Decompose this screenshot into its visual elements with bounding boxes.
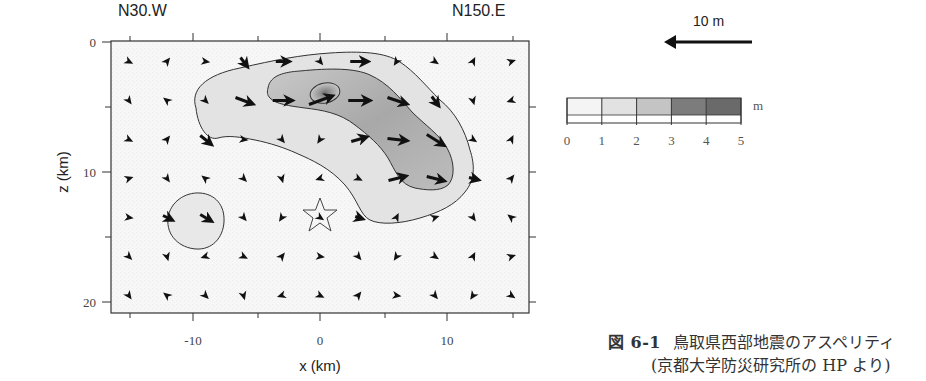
colorbar-cell xyxy=(637,98,672,115)
colorbar-tick-label: 2 xyxy=(633,133,640,148)
caption-number: 図 6-1 xyxy=(608,333,661,352)
plot-area xyxy=(111,41,529,313)
colorbar-tick-label: 3 xyxy=(668,133,675,148)
contour-1m-secondary xyxy=(168,193,224,249)
colorbar-tick-label: 5 xyxy=(738,133,745,148)
colorbar-tick-label: 0 xyxy=(564,133,571,148)
colorbar: 012345 m xyxy=(564,98,763,148)
y-tick-label: 10 xyxy=(83,165,96,180)
y-tick-label: 0 xyxy=(90,35,97,50)
colorbar-unit: m xyxy=(753,98,763,113)
figure-caption: 図 6-1鳥取県西部地震のアスペリティ (京都大学防災研究所の HP より) xyxy=(608,331,895,377)
x-tick-label: 0 xyxy=(317,333,324,348)
x-axis-label: x (km) xyxy=(299,357,341,374)
colorbar-cell xyxy=(706,98,741,115)
colorbar-cell xyxy=(671,98,706,115)
y-axis-label: z (km) xyxy=(54,151,71,193)
slip-arrow-icon xyxy=(388,139,406,141)
x-tick-labels: -10 0 10 xyxy=(184,333,453,348)
colorbar-cell xyxy=(602,98,637,115)
caption-line2: (京都大学防災研究所の HP より) xyxy=(608,354,895,377)
x-tick-label: 10 xyxy=(441,333,454,348)
y-tick-label: 20 xyxy=(83,295,96,310)
y-tick-labels: 0 10 20 xyxy=(83,35,96,310)
scale-arrow: 10 m xyxy=(664,13,752,49)
arrow-left-icon xyxy=(664,35,676,49)
colorbar-tick-label: 1 xyxy=(599,133,606,148)
direction-label-left: N30.W xyxy=(118,2,168,19)
direction-label-right: N150.E xyxy=(452,2,505,19)
x-tick-label: -10 xyxy=(184,333,201,348)
asperity-figure: N30.W N150.E 10 m xyxy=(0,0,926,381)
colorbar-cell xyxy=(567,98,602,115)
colorbar-tick-label: 4 xyxy=(703,133,710,148)
slip-arrow-icon xyxy=(355,217,361,219)
caption-line1: 鳥取県西部地震のアスペリティ xyxy=(673,333,895,352)
scale-arrow-label: 10 m xyxy=(693,13,724,29)
slip-arrow-icon xyxy=(469,178,477,180)
